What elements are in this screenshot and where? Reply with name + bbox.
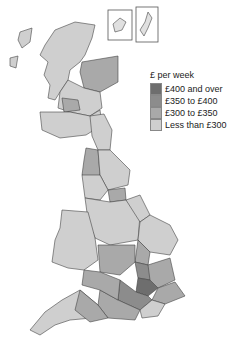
region-edinburgh — [62, 98, 80, 112]
region-south-yorkshire — [108, 188, 126, 202]
region-skye — [10, 56, 18, 68]
region-northumberland — [90, 114, 112, 150]
legend-title: £ per week — [150, 70, 227, 80]
legend-swatch — [150, 83, 162, 95]
map-legend: £ per week £400 and over £350 to £400 £3… — [150, 70, 227, 131]
legend-label: £400 and over — [165, 84, 223, 94]
legend-swatch — [150, 95, 162, 107]
legend-label: £350 to £400 — [165, 96, 218, 106]
legend-item-300-350: £300 to £350 — [150, 107, 227, 119]
legend-item-under-300: Less than £300 — [150, 119, 227, 131]
legend-item-350-400: £350 to £400 — [150, 95, 227, 107]
legend-item-400-plus: £400 and over — [150, 83, 227, 95]
legend-label: £300 to £350 — [165, 108, 218, 118]
uk-map — [0, 0, 235, 341]
region-aberdeenshire — [80, 56, 118, 92]
region-western-isles — [18, 28, 32, 48]
legend-label: Less than £300 — [165, 120, 227, 130]
region-oxfordshire — [98, 245, 135, 275]
legend-swatch — [150, 119, 162, 131]
legend-swatch — [150, 107, 162, 119]
